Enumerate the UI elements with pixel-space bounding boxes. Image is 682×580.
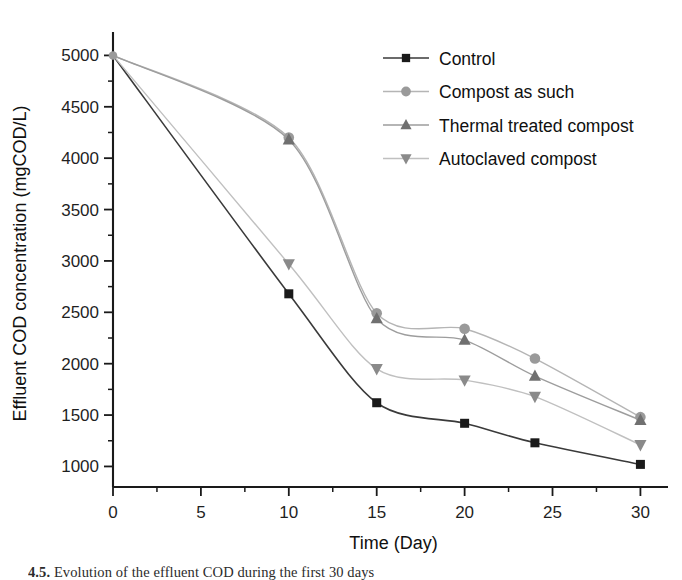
y-tick-label: 2500 [61,303,99,322]
marker-triangle-up [529,369,541,380]
legend-label: Autoclaved compost [439,149,597,169]
y-tick-label: 4000 [61,149,99,168]
x-tick-label: 15 [367,503,386,522]
legend-label: Compost as such [439,82,574,102]
marker-square [372,398,381,407]
marker-triangle-down [371,364,383,375]
marker-circle [530,353,541,364]
marker-square [636,460,645,469]
legend-marker-triangle-up [400,119,411,129]
legend-marker-triangle-down [400,154,411,164]
legend-label: Control [439,49,495,69]
legend-item-control[interactable]: Control [383,49,495,69]
y-tick-label: 3000 [61,252,99,271]
x-tick-label: 0 [108,503,117,522]
y-tick-label: 4500 [61,98,99,117]
marker-square [284,289,293,298]
x-axis-title: Time (Day) [349,533,437,553]
y-tick-label: 3500 [61,201,99,220]
legend-marker-square [402,54,410,62]
marker-triangle-down [634,440,646,451]
y-tick-label: 2000 [61,355,99,374]
legend-label: Thermal treated compost [439,116,634,136]
x-tick-label: 30 [631,503,650,522]
series-group [109,51,647,469]
figure-container: 1000150020002500300035004000450050000510… [0,0,682,580]
marker-circle [459,323,470,334]
caption-number: 4.5. [28,564,50,580]
origin-marker [109,51,117,59]
marker-square [530,438,539,447]
legend-item-autoclaved-compost[interactable]: Autoclaved compost [383,149,597,169]
series-autoclaved-compost [113,55,640,444]
y-tick-label: 1000 [61,457,99,476]
legend-marker-circle [401,87,411,97]
x-tick-label: 25 [543,503,562,522]
x-tick-label: 10 [279,503,298,522]
x-tick-label: 20 [455,503,474,522]
y-tick-label: 1500 [61,406,99,425]
y-axis-title: Effluent COD concentration (mgCOD/L) [10,106,30,422]
cod-evolution-line-chart: 1000150020002500300035004000450050000510… [0,0,682,560]
y-tick-label: 5000 [61,46,99,65]
legend-item-compost-as-such[interactable]: Compost as such [383,82,574,102]
series-line [113,55,640,417]
series-line [113,55,640,444]
marker-square [460,419,469,428]
chart-legend: ControlCompost as suchThermal treated co… [383,49,634,170]
y-axis-ticks: 100015002000250030003500400045005000 [61,46,113,476]
caption-text: Evolution of the effluent COD during the… [54,564,374,580]
figure-caption: 4.5. Evolution of the effluent COD durin… [28,564,668,580]
x-tick-label: 5 [196,503,205,522]
legend-item-thermal-treated-compost[interactable]: Thermal treated compost [383,116,634,136]
series-compost-as-such [113,55,640,417]
x-axis-ticks: 051015202530 [108,487,650,522]
